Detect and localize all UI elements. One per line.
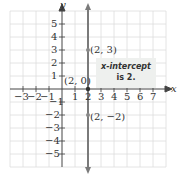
- y-tick: −2: [45, 110, 60, 120]
- x-tick: 1: [72, 92, 78, 102]
- y-tick: 4: [51, 32, 57, 42]
- x-axis-label: x: [171, 84, 177, 94]
- x-tick: 4: [111, 92, 117, 102]
- point-label-2-0: (2, 0): [64, 76, 91, 86]
- x-tick: 6: [137, 92, 143, 102]
- point-label-2-neg2: (2, −2): [90, 112, 125, 122]
- y-tick: −4: [45, 136, 60, 146]
- y-tick: −1: [49, 97, 64, 107]
- y-tick: −5: [45, 149, 60, 159]
- chart-canvas: [0, 0, 179, 176]
- y-axis-label: y: [60, 0, 66, 10]
- callout-line1: x-intercept: [96, 61, 156, 72]
- y-tick: −3: [45, 123, 60, 133]
- x-tick: 5: [124, 92, 130, 102]
- y-tick: 2: [51, 58, 57, 68]
- callout-line2: is 2.: [96, 72, 156, 83]
- y-tick: 5: [51, 19, 57, 29]
- x-tick: 7: [150, 92, 156, 102]
- point-label-2-3: (2, 3): [90, 45, 117, 55]
- y-tick: 1: [51, 71, 57, 81]
- x-intercept-callout: x-intercept is 2.: [96, 58, 156, 88]
- x-tick: 2: [85, 92, 91, 102]
- x-tick: 3: [98, 92, 104, 102]
- y-tick: 3: [51, 45, 57, 55]
